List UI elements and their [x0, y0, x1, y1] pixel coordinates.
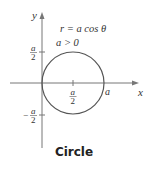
- polar-circle-diagram: y x r = a cos θ a > 0 a 2 − a 2 a 2 a: [0, 0, 148, 169]
- figure-caption: Circle: [0, 145, 148, 159]
- tick-label-x-half-den: 2: [71, 96, 76, 106]
- tick-label-y-neg-den: 2: [31, 115, 36, 125]
- tick-label-x-full: a: [105, 86, 110, 97]
- y-axis-label: y: [31, 9, 37, 21]
- x-axis-label: x: [137, 86, 143, 98]
- tick-label-y-neg-sign: −: [23, 110, 28, 120]
- y-axis-arrow-icon: [40, 12, 45, 19]
- condition-label: a > 0: [56, 37, 80, 48]
- tick-label-y-pos-den: 2: [31, 52, 36, 62]
- x-axis-arrow-icon: [132, 81, 139, 86]
- equation-label: r = a cos θ: [60, 23, 106, 34]
